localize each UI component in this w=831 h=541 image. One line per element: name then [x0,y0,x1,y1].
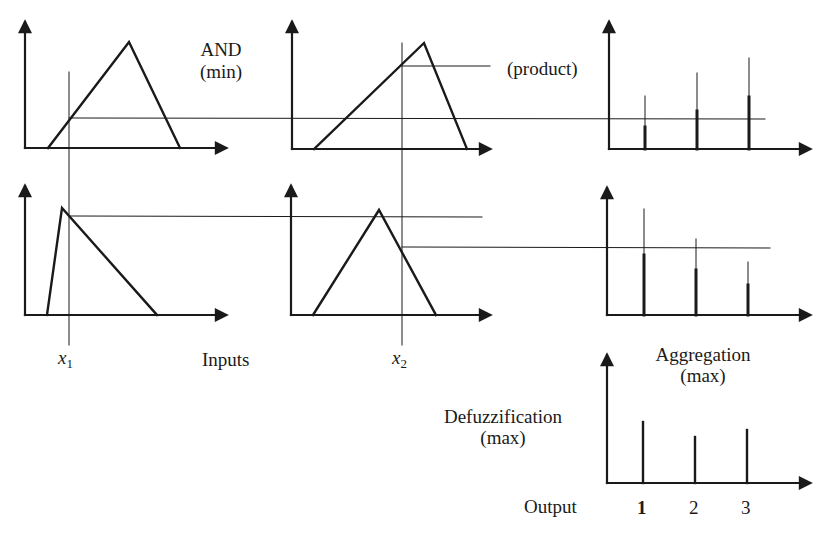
rule2-min-level [402,247,770,248]
membership-triangle [313,210,436,315]
min-label: (min) [196,62,246,82]
panel-rule2-output [607,188,810,315]
x2-subscript: 2 [400,356,407,371]
defuzzification-method: (max) [438,428,568,448]
membership-triangle [314,43,467,149]
rule1-min-level [69,118,765,119]
defuzzification-title: Defuzzification [438,407,568,427]
membership-triangle [47,208,157,315]
output-label: Output [524,497,577,517]
defuzzification-label: Defuzzification (max) [438,407,568,448]
panel-rule2-input2 [291,186,490,315]
rule2-x1-level [69,216,482,217]
product-label: (product) [507,59,578,79]
panel-rule1-output [609,22,810,149]
and-min-label: AND (min) [196,40,246,82]
aggregation-label: Aggregation (max) [648,345,758,386]
aggregation-title: Aggregation [648,345,758,365]
panel-rule1-input2 [292,22,490,149]
membership-triangle [48,42,180,148]
x2-label: x2 [392,348,407,374]
aggregation-method: (max) [648,366,758,386]
output-tick-2: 2 [689,498,699,518]
output-tick-3: 3 [741,498,751,518]
guide-lines [69,43,770,345]
and-label: AND [196,40,246,60]
output-tick-1: 1 [637,498,647,518]
inputs-label: Inputs [202,350,250,370]
x1-subscript: 1 [66,356,73,371]
fuzzy-inference-diagram [0,0,831,541]
x1-label: x1 [58,348,73,374]
panel-rule2-input1 [25,186,226,315]
